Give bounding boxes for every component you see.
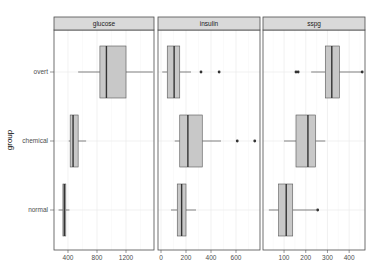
outlier-point	[361, 71, 364, 74]
x-tick-label: 400	[63, 254, 74, 261]
facet-strip-label: sspg	[307, 20, 321, 28]
facet-strip-label: glucose	[93, 20, 116, 28]
box-iqr	[296, 115, 316, 167]
x-tick-label: 400	[344, 254, 355, 261]
outlier-point	[200, 71, 203, 74]
y-tick-label-normal: normal	[28, 206, 48, 213]
y-tick-label-chemical: chemical	[22, 137, 48, 144]
y-tick-label-overt: overt	[34, 68, 49, 75]
outlier-point	[218, 71, 221, 74]
x-tick-label: 400	[206, 254, 217, 261]
box-iqr	[100, 46, 126, 98]
x-tick-label: 600	[231, 254, 242, 261]
panel-glucose: 4008001200glucose	[54, 17, 154, 261]
boxplot-chart: groupovertchemicalnormal4008001200glucos…	[0, 0, 384, 277]
box-iqr	[180, 115, 203, 167]
outlier-point	[236, 140, 239, 143]
x-tick-label: 100	[279, 254, 290, 261]
x-tick-label: 1200	[119, 254, 134, 261]
outlier-point	[253, 140, 256, 143]
panel-sspg: 100200300400sspg	[263, 17, 365, 261]
panel-insulin: 0200400600insulin	[158, 17, 260, 261]
x-tick-label: 300	[322, 254, 333, 261]
box-iqr	[70, 115, 78, 167]
y-axis-title: group	[5, 129, 14, 150]
x-tick-label: 0	[159, 254, 163, 261]
facet-strip-label: insulin	[200, 20, 219, 27]
outlier-point	[297, 71, 300, 74]
x-tick-label: 200	[300, 254, 311, 261]
outlier-point	[316, 209, 319, 212]
x-tick-label: 800	[92, 254, 103, 261]
x-tick-label: 200	[181, 254, 192, 261]
